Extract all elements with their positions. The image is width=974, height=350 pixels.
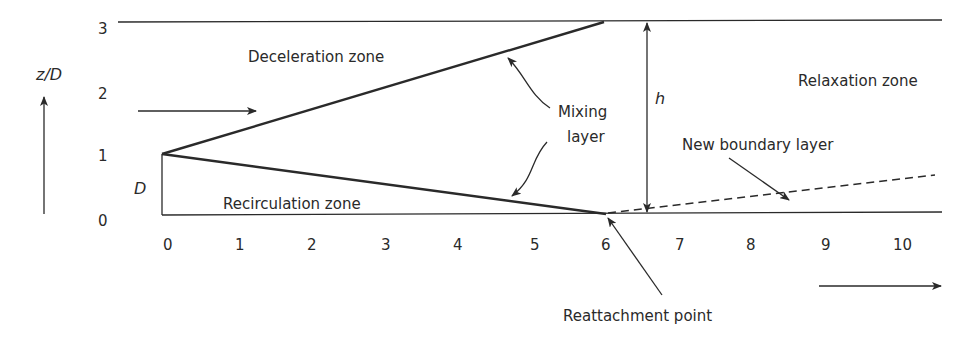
x-tick-5: 5 (530, 236, 540, 254)
y-tick-3: 3 (98, 20, 108, 38)
x-tick-0: 0 (163, 236, 173, 254)
relaxation-zone-label: Relaxation zone (798, 72, 918, 90)
new-boundary-layer-label: New boundary layer (682, 136, 834, 154)
x-tick-3: 3 (381, 236, 391, 254)
mixing-layer-label-line2: layer (567, 128, 605, 146)
x-tick-1: 1 (235, 236, 245, 254)
top-wall (118, 20, 942, 22)
recirculation-zone-label: Recirculation zone (223, 195, 361, 213)
new-boundary-layer-pointer-icon (729, 158, 789, 200)
x-tick-7: 7 (675, 236, 685, 254)
x-tick-8: 8 (746, 236, 756, 254)
y-tick-2: 2 (98, 85, 108, 103)
x-tick-6: 6 (601, 236, 611, 254)
step-height-label: D (134, 179, 146, 198)
reattachment-pointer-icon (608, 218, 662, 295)
mixing-layer-label-line1: Mixing (558, 103, 607, 121)
x-tick-10: 10 (893, 236, 912, 254)
deceleration-zone-label: Deceleration zone (248, 48, 384, 66)
y-tick-0: 0 (98, 212, 108, 230)
x-tick-9: 9 (821, 236, 831, 254)
upper-mixing-layer-boundary (162, 22, 604, 154)
step-flow-diagram: 3 2 1 0 z/D 0 1 2 3 4 5 6 7 8 9 10 Decel… (0, 0, 974, 350)
channel-height-label: h (655, 89, 665, 108)
mixing-layer-upper-pointer-icon (508, 58, 550, 108)
y-axis-label: z/D (35, 65, 62, 84)
y-tick-1: 1 (98, 147, 108, 165)
reattachment-point-label: Reattachment point (563, 307, 712, 325)
x-tick-2: 2 (307, 236, 317, 254)
x-tick-4: 4 (453, 236, 463, 254)
mixing-layer-lower-pointer-icon (512, 142, 547, 196)
new-boundary-layer-line (608, 175, 935, 213)
